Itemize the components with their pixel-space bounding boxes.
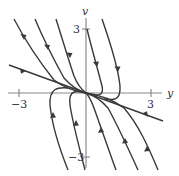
arrow-icon	[115, 67, 121, 73]
trajectory-ur-2	[102, 19, 120, 100]
trajectory-ll-1	[50, 88, 68, 170]
phase-portrait: y v −3 3 3 −3	[0, 0, 179, 176]
y-axis-label: v	[82, 5, 89, 18]
arrow-icon	[98, 127, 104, 133]
v-tick-label-pos3: 3	[73, 23, 80, 36]
arrow-icon	[93, 62, 99, 68]
x-axis-label: y	[166, 87, 174, 100]
x-tick-label-neg3: −3	[11, 98, 27, 111]
x-tick-label-pos3: 3	[147, 98, 154, 111]
phase-portrait-svg: y v −3 3 3 −3	[0, 0, 179, 176]
arrow-icon	[20, 68, 26, 74]
